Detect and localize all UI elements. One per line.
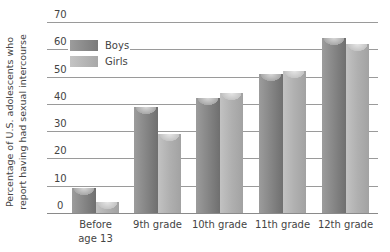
bar-cap: [259, 74, 283, 84]
y-tick-70: 70: [54, 9, 74, 20]
bar-boys-3: [259, 74, 283, 213]
bar-girls-1: [158, 134, 182, 213]
x-tick-label-3: 11th grade: [247, 218, 318, 232]
x-tick-label-0: Beforeage 13: [60, 218, 131, 246]
bar-girls-0: [96, 202, 120, 213]
y-tick-10: 10: [54, 173, 74, 184]
x-tick-label-4: 12th grade: [310, 218, 381, 232]
x-tick-label-2: 10th grade: [184, 218, 255, 232]
bar-cap: [322, 38, 346, 48]
bar-girls-4: [346, 44, 370, 213]
bar-cap: [134, 107, 158, 117]
legend-label-boys: Boys: [105, 40, 129, 51]
bar-cap: [220, 93, 244, 103]
legend-swatch-boys: [70, 40, 98, 51]
bar-girls-3: [283, 71, 307, 213]
legend-item-girls: Girls: [70, 53, 129, 69]
bar-boys-0: [72, 188, 96, 213]
y-tick-20: 20: [54, 145, 74, 156]
bar-boys-2: [196, 98, 220, 213]
gridline-70: [47, 22, 378, 23]
bar-cap: [158, 134, 182, 144]
y-axis-label-line-2: report having had sexual intercourse: [16, 17, 29, 227]
legend: Boys Girls: [70, 37, 129, 69]
y-axis-label: Percentage of U.S. adolescents who repor…: [3, 17, 31, 227]
gridline-0: [47, 213, 378, 214]
bar-cap: [72, 188, 96, 198]
bar-cap: [196, 98, 220, 108]
y-tick-30: 30: [54, 118, 74, 129]
bar-boys-1: [134, 107, 158, 213]
bar-cap: [346, 44, 370, 54]
x-tick-label-1: 9th grade: [122, 218, 193, 232]
y-axis-label-line-1: Percentage of U.S. adolescents who: [3, 17, 16, 227]
legend-swatch-girls: [70, 56, 98, 67]
legend-label-girls: Girls: [105, 56, 128, 67]
bar-boys-4: [322, 38, 346, 213]
bar-girls-2: [220, 93, 244, 213]
bar-chart: Percentage of U.S. adolescents who repor…: [0, 0, 390, 252]
bar-cap: [96, 202, 120, 212]
bar-cap: [283, 71, 307, 81]
legend-item-boys: Boys: [70, 37, 129, 53]
y-tick-40: 40: [54, 91, 74, 102]
